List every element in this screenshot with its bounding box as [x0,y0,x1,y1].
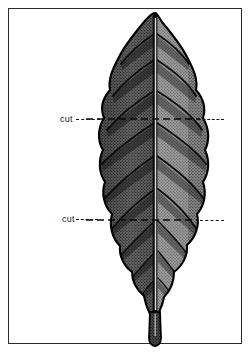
cut-leader-dash-lower [76,219,98,220]
cut-leader-dash-right-upper [198,119,224,120]
cut-label-upper: cut [60,114,73,124]
cut-leader-dash-upper [76,119,100,120]
leaf-shading [0,0,251,356]
leaf-blade [0,0,251,356]
leaf-illustration [0,0,251,356]
cut-annotation-lower: cut [62,213,98,225]
leaf-petiole [149,312,161,346]
cut-label-lower: cut [62,214,75,224]
cut-annotation-upper: cut [60,113,100,125]
figure-root: cut cut [0,0,251,356]
cut-leader-dash-right-lower [200,220,224,221]
